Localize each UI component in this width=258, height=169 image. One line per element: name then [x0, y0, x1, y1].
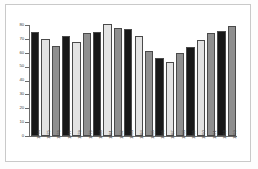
- x-axis-label: 1993: [233, 130, 237, 139]
- bar-slot[interactable]: [186, 25, 194, 136]
- bar-slot[interactable]: [31, 25, 39, 136]
- x-axis-label: 1981: [109, 130, 113, 139]
- bar[interactable]: [207, 33, 215, 136]
- bar-slot[interactable]: [155, 25, 163, 136]
- x-axis-label: 1978: [78, 130, 82, 139]
- y-axis-tick: [25, 39, 29, 40]
- bar-slot[interactable]: [41, 25, 49, 136]
- bar[interactable]: [93, 32, 101, 136]
- y-axis-label: 30: [10, 92, 24, 96]
- bar[interactable]: [145, 51, 153, 136]
- bar-slot[interactable]: [166, 25, 174, 136]
- x-axis-label: 1983: [130, 130, 134, 139]
- bar[interactable]: [62, 36, 70, 136]
- y-axis-tick: [25, 53, 29, 54]
- bar[interactable]: [217, 31, 225, 136]
- y-axis-label: 20: [10, 106, 24, 110]
- y-axis-tick: [25, 81, 29, 82]
- y-axis-label: 10: [10, 120, 24, 124]
- x-axis-label: 1982: [120, 130, 124, 139]
- x-axis-label: 1979: [89, 130, 93, 139]
- bar-slot[interactable]: [83, 25, 91, 136]
- y-axis-label: 40: [10, 78, 24, 82]
- bar-slot[interactable]: [52, 25, 60, 136]
- bar[interactable]: [197, 40, 205, 136]
- bar-slot[interactable]: [114, 25, 122, 136]
- y-axis-tick: [25, 25, 29, 26]
- y-axis-tick: [25, 122, 29, 123]
- y-axis-label: 60: [10, 51, 24, 55]
- figure-frame: 01020304050607080 1974197519761977197819…: [0, 0, 258, 169]
- bar-slot[interactable]: [124, 25, 132, 136]
- bar[interactable]: [103, 24, 111, 136]
- x-axis-label: 1990: [202, 130, 206, 139]
- bar[interactable]: [114, 28, 122, 136]
- x-axis-label: 1989: [192, 130, 196, 139]
- bar[interactable]: [176, 53, 184, 136]
- bar-slot[interactable]: [135, 25, 143, 136]
- y-axis-label: 0: [10, 134, 24, 138]
- bar-series: [30, 25, 237, 136]
- bar[interactable]: [135, 36, 143, 136]
- x-axis-label: 1974: [37, 130, 41, 139]
- bar[interactable]: [52, 46, 60, 136]
- bar-slot[interactable]: [93, 25, 101, 136]
- y-axis-label: 50: [10, 64, 24, 68]
- y-axis-tick: [25, 94, 29, 95]
- bar-slot[interactable]: [207, 25, 215, 136]
- bar-slot[interactable]: [217, 25, 225, 136]
- bar-chart: 01020304050607080 1974197519761977197819…: [0, 0, 258, 169]
- x-axis-label: 1992: [223, 130, 227, 139]
- bar-slot[interactable]: [103, 25, 111, 136]
- x-axis-label: 1986: [161, 130, 165, 139]
- x-axis-label: 1977: [68, 130, 72, 139]
- bar[interactable]: [124, 29, 132, 136]
- bar[interactable]: [155, 58, 163, 136]
- x-axis-label: 1991: [213, 130, 217, 139]
- bar-slot[interactable]: [72, 25, 80, 136]
- y-axis-label: 80: [10, 23, 24, 27]
- x-axis-label: 1988: [182, 130, 186, 139]
- bar-slot[interactable]: [145, 25, 153, 136]
- y-axis-tick: [25, 67, 29, 68]
- x-axis-label: 1975: [47, 130, 51, 139]
- bar[interactable]: [72, 42, 80, 136]
- bar-slot[interactable]: [228, 25, 236, 136]
- x-axis-label: 1985: [151, 130, 155, 139]
- bar[interactable]: [83, 33, 91, 136]
- x-axis-label: 1980: [99, 130, 103, 139]
- y-axis-tick: [25, 136, 29, 137]
- y-axis-tick: [25, 108, 29, 109]
- bar[interactable]: [228, 26, 236, 136]
- bar[interactable]: [166, 62, 174, 136]
- bar[interactable]: [31, 32, 39, 136]
- x-axis-label: 1984: [140, 130, 144, 139]
- bar-slot[interactable]: [197, 25, 205, 136]
- bar-slot[interactable]: [62, 25, 70, 136]
- bar-slot[interactable]: [176, 25, 184, 136]
- x-axis-label: 1987: [171, 130, 175, 139]
- bar[interactable]: [186, 47, 194, 136]
- x-axis-label: 1976: [57, 130, 61, 139]
- y-axis-label: 70: [10, 37, 24, 41]
- bar[interactable]: [41, 39, 49, 136]
